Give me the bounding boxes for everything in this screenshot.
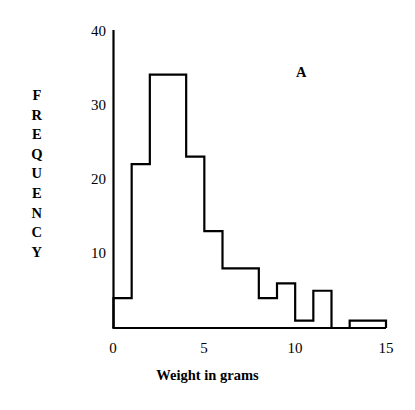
y-tick-labels: 40 30 20 10 [91,23,106,261]
x-tick-labels: 0 5 10 15 [109,340,393,356]
histogram-outline [114,75,387,328]
y-tick-label: 10 [91,245,106,261]
x-tick-label: 15 [379,340,394,356]
x-tick-label: 10 [288,340,303,356]
y-tick-label: 40 [91,23,106,39]
x-axis-title: Weight in grams [0,367,415,384]
plot-area: 40 30 20 10 0 5 10 15 [0,0,415,410]
x-tick-label: 5 [200,340,208,356]
y-tick-label: 20 [91,171,106,187]
x-tick-label: 0 [109,340,117,356]
y-tick-label: 30 [91,97,106,113]
histogram-figure: F R E Q U E N C Y A 40 30 20 10 0 5 10 1… [0,0,415,410]
